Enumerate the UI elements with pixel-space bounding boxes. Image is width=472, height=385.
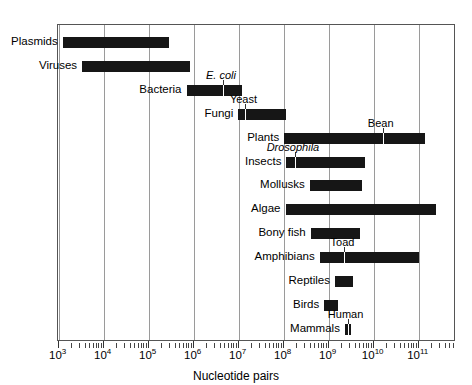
bar-amphibians	[320, 252, 419, 263]
minor-tick	[124, 343, 125, 348]
annotation-tick-drosophila	[295, 157, 296, 168]
minor-tick	[449, 343, 450, 348]
category-label-bony-fish: Bony fish	[0, 227, 306, 238]
minor-tick	[281, 343, 282, 348]
minor-tick	[236, 343, 237, 348]
figure-root: Nucleotide pairs 10310410510610710810910…	[0, 0, 472, 385]
category-label-viruses: Viruses	[0, 60, 77, 71]
minor-tick	[318, 343, 319, 348]
minor-tick	[453, 343, 454, 348]
major-tick-1e8	[283, 341, 284, 348]
annotation-tick-e--coli	[223, 85, 224, 96]
minor-tick	[408, 343, 409, 348]
minor-tick	[321, 343, 322, 348]
minor-tick	[188, 343, 189, 348]
category-label-amphibians: Amphibians	[0, 251, 315, 262]
minor-tick	[116, 343, 117, 348]
minor-tick	[326, 343, 327, 348]
major-tick-1e10	[373, 341, 374, 348]
minor-tick	[143, 343, 144, 348]
minor-tick	[363, 343, 364, 348]
category-label-reptiles: Reptiles	[0, 275, 330, 286]
minor-tick	[89, 343, 90, 348]
major-tick-1e6	[193, 341, 194, 348]
minor-tick	[98, 343, 99, 348]
annotation-label-yeast: Yeast	[230, 94, 257, 105]
minor-tick	[310, 343, 311, 348]
minor-tick	[161, 343, 162, 348]
tick-label-1e6: 106	[184, 349, 201, 361]
tick-label-1e9: 109	[319, 349, 336, 361]
minor-tick	[314, 343, 315, 348]
bar-insects	[286, 157, 364, 168]
major-tick-1e11	[418, 341, 419, 348]
minor-tick	[276, 343, 277, 348]
minor-tick	[265, 343, 266, 348]
annotation-tick-human	[348, 324, 349, 335]
minor-tick	[359, 343, 360, 348]
bar-reptiles	[335, 276, 353, 287]
tick-label-1e3: 103	[49, 349, 66, 361]
tick-label-1e8: 108	[274, 349, 291, 361]
tick-label-1e7: 107	[229, 349, 246, 361]
minor-tick	[278, 343, 279, 348]
annotation-tick-yeast	[245, 109, 246, 120]
category-label-plasmids: Plasmids	[0, 36, 58, 47]
minor-tick	[251, 343, 252, 348]
gridline-1e11	[419, 25, 420, 340]
minor-tick	[220, 343, 221, 348]
minor-tick	[368, 343, 369, 348]
minor-tick	[296, 343, 297, 348]
minor-tick	[138, 343, 139, 348]
minor-tick	[146, 343, 147, 348]
annotation-label-bean: Bean	[368, 118, 394, 129]
minor-tick	[323, 343, 324, 348]
minor-tick	[439, 343, 440, 348]
category-label-birds: Birds	[0, 299, 319, 310]
minor-tick	[269, 343, 270, 348]
minor-tick	[231, 343, 232, 348]
minor-tick	[400, 343, 401, 348]
minor-tick	[224, 343, 225, 348]
annotation-label-e--coli: E. coli	[206, 70, 236, 81]
minor-tick	[431, 343, 432, 348]
minor-tick	[394, 343, 395, 348]
major-tick-1e5	[148, 341, 149, 348]
minor-tick	[233, 343, 234, 348]
minor-tick	[71, 343, 72, 348]
bar-plasmids	[63, 37, 169, 48]
minor-tick	[404, 343, 405, 348]
major-tick-1e9	[328, 341, 329, 348]
minor-tick	[186, 343, 187, 348]
annotation-tick-bean	[383, 133, 384, 144]
minor-tick	[386, 343, 387, 348]
minor-tick	[416, 343, 417, 348]
minor-tick	[273, 343, 274, 348]
bar-viruses	[82, 61, 190, 72]
minor-tick	[85, 343, 86, 348]
minor-tick	[413, 343, 414, 348]
tick-label-1e4: 104	[94, 349, 111, 361]
gridline-1e10	[374, 25, 375, 340]
minor-tick	[169, 343, 170, 348]
minor-tick	[349, 343, 350, 348]
annotation-tick-toad	[344, 252, 345, 263]
minor-tick	[179, 343, 180, 348]
minor-tick	[371, 343, 372, 348]
category-label-plants: Plants	[0, 132, 279, 143]
category-label-bacteria: Bacteria	[0, 84, 182, 95]
minor-tick	[214, 343, 215, 348]
annotation-label-drosophila: Drosophila	[267, 142, 320, 153]
category-label-fungi: Fungi	[0, 108, 233, 119]
minor-tick	[96, 343, 97, 348]
tick-label-1e10: 1010	[362, 349, 384, 361]
category-label-algae: Algae	[0, 203, 281, 214]
minor-tick	[191, 343, 192, 348]
bar-mollusks	[310, 180, 362, 191]
bar-algae	[286, 204, 437, 215]
category-label-insects: Insects	[0, 156, 281, 167]
minor-tick	[183, 343, 184, 348]
minor-tick	[228, 343, 229, 348]
minor-tick	[206, 343, 207, 348]
minor-tick	[141, 343, 142, 348]
